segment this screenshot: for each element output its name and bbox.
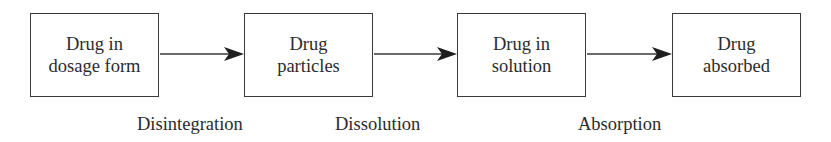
arrow-icon (374, 44, 457, 64)
node-drug-particles: Drug particles (244, 13, 373, 97)
node-drug-in-solution: Drug in solution (457, 13, 586, 97)
node-label-line-2: dosage form (49, 55, 141, 77)
drug-absorption-flow-diagram: Drug in dosage form Drug particles Drug … (0, 0, 831, 142)
arrow-icon (160, 44, 244, 64)
edge-label-dissolution: Dissolution (335, 113, 420, 135)
node-label-line-1: Drug (289, 33, 327, 55)
node-label-line-2: particles (277, 55, 340, 77)
node-drug-in-dosage-form: Drug in dosage form (30, 13, 159, 97)
node-label-line-2: absorbed (703, 55, 770, 77)
node-drug-absorbed: Drug absorbed (672, 13, 801, 97)
arrow-icon (587, 44, 672, 64)
node-label-line-1: Drug in (493, 33, 550, 55)
node-label-line-1: Drug in (66, 33, 123, 55)
edge-label-disintegration: Disintegration (137, 113, 243, 135)
node-label-line-2: solution (492, 55, 552, 77)
node-label-line-1: Drug (717, 33, 755, 55)
edge-label-absorption: Absorption (578, 113, 661, 135)
